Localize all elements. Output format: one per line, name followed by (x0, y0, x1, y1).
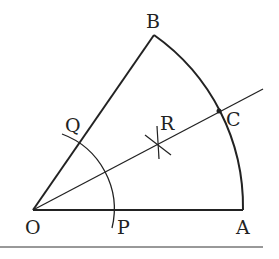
label-A: A (235, 216, 250, 238)
arc-mark-R-2 (157, 126, 159, 159)
point-C (217, 109, 222, 114)
label-Q: Q (65, 114, 81, 136)
segment-OB (33, 35, 154, 210)
label-C: C (226, 108, 241, 130)
label-P: P (117, 216, 130, 238)
label-O: O (25, 216, 41, 238)
label-R: R (160, 112, 175, 134)
label-B: B (146, 10, 160, 32)
diagram-canvas: B Q R C O P A (0, 0, 279, 259)
